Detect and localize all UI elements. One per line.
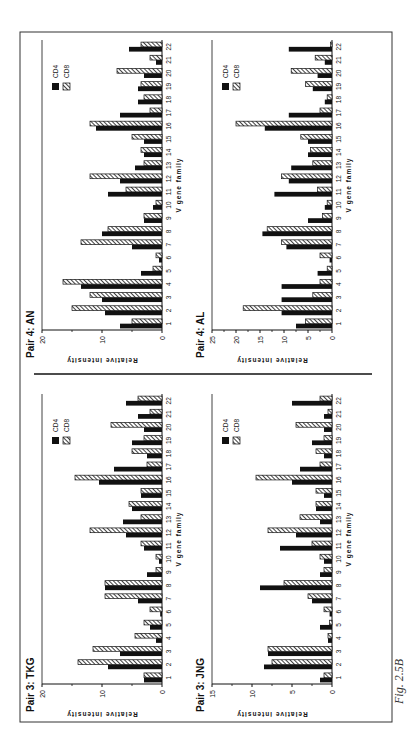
- legend-swatch-cd8: [63, 83, 70, 90]
- bar-cd8: [327, 266, 332, 271]
- x-tick-label: 1: [165, 321, 172, 325]
- bar-cd4: [138, 100, 162, 105]
- bar-cd8: [144, 673, 162, 678]
- bar-cd4: [120, 651, 162, 656]
- bar-cd8: [90, 174, 162, 179]
- bar-cd8: [324, 436, 332, 441]
- x-tick-label: 12: [165, 175, 172, 183]
- x-tick-label: 16: [165, 122, 172, 130]
- y-tick-label: 0: [159, 690, 166, 694]
- x-tick-label: 13: [335, 515, 342, 523]
- figure-canvas: 01020Relative intensity12345678910111213…: [0, 0, 412, 744]
- bar-cd4: [316, 506, 332, 511]
- x-tick-label: 17: [335, 463, 342, 471]
- bar-cd4: [320, 519, 332, 524]
- x-tick-label: 21: [335, 56, 342, 64]
- bar-cd8: [267, 227, 332, 232]
- bar-cd4: [274, 192, 332, 197]
- bar-cd8: [291, 68, 332, 73]
- y-axis-label: Relative intensity: [66, 356, 137, 364]
- x-tick-label: 6: [335, 256, 342, 260]
- bar-cd8: [315, 55, 332, 60]
- legend-label-cd4: CD4: [52, 419, 59, 432]
- legend-label-cd8: CD8: [233, 65, 240, 78]
- y-tick-label: 5: [305, 336, 312, 340]
- x-tick-label: 2: [335, 308, 342, 312]
- y-tick-label: 10: [99, 690, 106, 698]
- bar-cd4: [286, 245, 332, 250]
- bar-cd8: [129, 502, 162, 507]
- x-tick-label: 14: [335, 148, 342, 156]
- bar-cd4: [282, 284, 332, 289]
- bar-cd8: [243, 306, 332, 311]
- x-tick-label: 4: [165, 636, 172, 640]
- bar-cd4: [156, 60, 162, 65]
- bar-cd4: [289, 179, 332, 184]
- bar-cd4: [99, 480, 162, 485]
- legend-label-cd8: CD8: [63, 65, 70, 78]
- x-tick-label: 9: [165, 570, 172, 574]
- x-tick-label: 8: [335, 229, 342, 233]
- bar-cd8: [150, 409, 162, 414]
- x-tick-label: 2: [165, 662, 172, 666]
- y-tick-label: 15: [257, 336, 264, 344]
- y-tick-label: 20: [39, 336, 46, 344]
- bar-cd8: [141, 541, 162, 546]
- x-tick-label: 22: [165, 43, 172, 51]
- bar-cd4: [320, 625, 332, 630]
- x-tick-label: 21: [335, 410, 342, 418]
- bar-cd8: [117, 68, 162, 73]
- x-tick-label: 5: [335, 623, 342, 627]
- x-tick-label: 3: [335, 295, 342, 299]
- bar-cd8: [90, 293, 162, 298]
- y-tick-label: 5: [289, 690, 296, 694]
- x-tick-label: 8: [165, 583, 172, 587]
- x-tick-label: 8: [335, 583, 342, 587]
- bar-cd8: [156, 253, 162, 258]
- legend-label-cd4: CD4: [52, 65, 59, 78]
- bar-cd8: [150, 55, 162, 60]
- bar-cd4: [325, 60, 332, 65]
- legend-swatch-cd4: [222, 83, 229, 90]
- bar-cd4: [105, 585, 162, 590]
- bar-cd8: [284, 581, 332, 586]
- x-tick-label: 16: [335, 476, 342, 484]
- bar-cd8: [81, 240, 162, 245]
- x-tick-label: 1: [335, 675, 342, 679]
- x-tick-label: 16: [165, 476, 172, 484]
- bar-cd8: [313, 161, 332, 166]
- bar-cd4: [318, 73, 332, 78]
- x-tick-label: 7: [165, 596, 172, 600]
- bar-cd4: [126, 533, 162, 538]
- x-tick-label: 19: [335, 82, 342, 90]
- legend-label-cd8: CD8: [63, 419, 70, 432]
- bar-cd4: [324, 414, 332, 419]
- x-tick-label: 13: [165, 161, 172, 169]
- bar-cd4: [144, 546, 162, 551]
- y-axis-label: Relative intensity: [236, 356, 307, 364]
- x-axis-label: V gene family: [175, 512, 183, 567]
- bar-cd8: [141, 488, 162, 493]
- x-tick-label: 20: [165, 423, 172, 431]
- bar-cd4: [153, 205, 162, 210]
- x-tick-label: 11: [165, 188, 172, 195]
- y-tick-label: 0: [329, 690, 336, 694]
- x-tick-label: 6: [335, 610, 342, 614]
- bar-cd8: [105, 594, 162, 599]
- bar-cd4: [159, 559, 162, 564]
- bar-cd8: [268, 528, 332, 533]
- bar-cd4: [114, 467, 162, 472]
- x-tick-label: 19: [165, 82, 172, 90]
- bar-cd8: [90, 121, 162, 126]
- x-tick-label: 3: [165, 649, 172, 653]
- x-tick-label: 9: [335, 570, 342, 574]
- x-tick-label: 5: [165, 623, 172, 627]
- bar-cd4: [147, 454, 162, 459]
- x-tick-label: 4: [165, 282, 172, 286]
- bar-cd8: [282, 174, 332, 179]
- x-tick-label: 3: [335, 649, 342, 653]
- bar-cd8: [144, 95, 162, 100]
- chart-pair-4-al: 0510152025Relative intensity123456789101…: [195, 40, 353, 364]
- bar-cd8: [324, 607, 332, 612]
- x-tick-label: 17: [165, 109, 172, 117]
